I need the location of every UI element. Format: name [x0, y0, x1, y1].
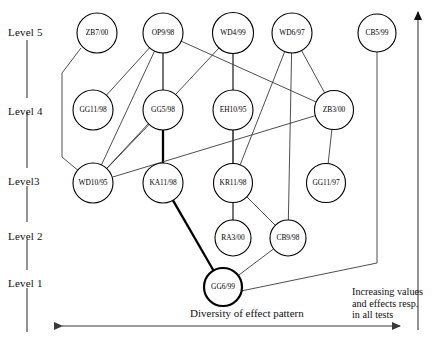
- node-circle[interactable]: [307, 164, 346, 203]
- edge-ZB300-GG1197: [328, 129, 332, 163]
- node-ZB300[interactable]: ZB3/00: [315, 91, 354, 130]
- y-axis-caption-line1: Increasing values: [352, 286, 423, 298]
- node-circle[interactable]: [213, 90, 253, 130]
- level-label-level3: Level3: [8, 175, 40, 187]
- node-circle[interactable]: [204, 268, 242, 306]
- node-KR1198[interactable]: KR11/98: [214, 164, 253, 203]
- node-GG699[interactable]: GG6/99: [204, 268, 242, 306]
- node-circle[interactable]: [73, 90, 113, 130]
- node-GG1198[interactable]: GG11/98: [73, 90, 113, 130]
- node-circle[interactable]: [270, 220, 306, 256]
- node-GG1197[interactable]: GG11/97: [307, 164, 346, 203]
- node-WD499[interactable]: WD4/99: [213, 13, 254, 54]
- edge-OP998-GG1198: [106, 48, 149, 95]
- edge-GG598-WD1095: [107, 124, 149, 168]
- node-circle[interactable]: [214, 164, 253, 203]
- node-circle[interactable]: [315, 91, 354, 130]
- node-GG598[interactable]: GG5/98: [143, 90, 183, 130]
- y-axis-caption: Increasing values and effects resp. in a…: [352, 286, 423, 321]
- node-KA1198[interactable]: KA11/98: [143, 163, 183, 203]
- edge-WD697-ZB300: [302, 51, 325, 93]
- level-label-level1: Level 1: [8, 277, 43, 289]
- node-EH1095[interactable]: EH10/95: [213, 90, 253, 130]
- node-circle[interactable]: [77, 13, 117, 53]
- edge-ZB300-WD1095: [112, 116, 315, 178]
- node-circle[interactable]: [143, 163, 183, 203]
- level-label-level2: Level 2: [8, 230, 43, 242]
- node-circle[interactable]: [215, 220, 251, 256]
- node-circle[interactable]: [358, 14, 396, 52]
- level-label-level5: Level 5: [8, 26, 43, 38]
- node-circle[interactable]: [213, 13, 254, 54]
- node-ZB700[interactable]: ZB7/00: [77, 13, 117, 53]
- y-axis-caption-line3: in all tests: [352, 309, 423, 321]
- node-circle[interactable]: [73, 163, 113, 203]
- node-CB599[interactable]: CB5/99: [358, 14, 396, 52]
- node-OP998[interactable]: OP9/98: [143, 13, 183, 53]
- node-WD697[interactable]: WD6/97: [272, 13, 312, 53]
- edge-KA1198-GG699: [173, 200, 214, 270]
- node-WD1095[interactable]: WD10/95: [73, 163, 113, 203]
- edge-CB599-GG699: [241, 52, 377, 291]
- x-axis-caption: Diversity of effect pattern: [190, 307, 304, 319]
- y-axis-caption-line2: and effects resp.: [352, 298, 423, 310]
- figure-canvas: ZB7/00OP9/98WD4/99WD6/97CB5/99GG11/98GG5…: [0, 0, 441, 339]
- edge-KR1198-CB998: [247, 197, 275, 225]
- node-circle[interactable]: [143, 13, 183, 53]
- level-label-level4: Level 4: [8, 105, 43, 117]
- node-circle[interactable]: [272, 13, 312, 53]
- node-group: ZB7/00OP9/98WD4/99WD6/97CB5/99GG11/98GG5…: [73, 13, 396, 307]
- edge-WD697-CB998: [288, 53, 291, 220]
- node-CB998[interactable]: CB9/98: [270, 220, 306, 256]
- node-circle[interactable]: [143, 90, 183, 130]
- node-RA300[interactable]: RA3/00: [215, 220, 251, 256]
